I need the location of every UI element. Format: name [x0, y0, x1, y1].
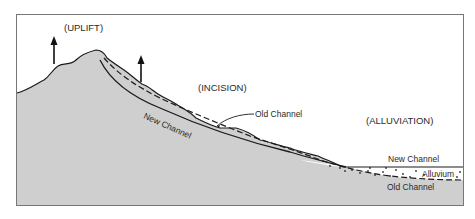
alluvium-label: Alluvium — [422, 169, 454, 179]
new-channel-right-label: New Channel — [388, 154, 439, 164]
landscape-diagram: (UPLIFT) (INCISION) (ALLUVIATION) Old Ch… — [0, 0, 475, 219]
old-channel-lower-label: Old Channel — [387, 182, 434, 192]
old-channel-upper-label: Old Channel — [255, 109, 302, 119]
uplift-label: (UPLIFT) — [64, 22, 103, 33]
incision-label: (INCISION) — [198, 82, 247, 93]
alluviation-label: (ALLUVIATION) — [366, 115, 433, 126]
